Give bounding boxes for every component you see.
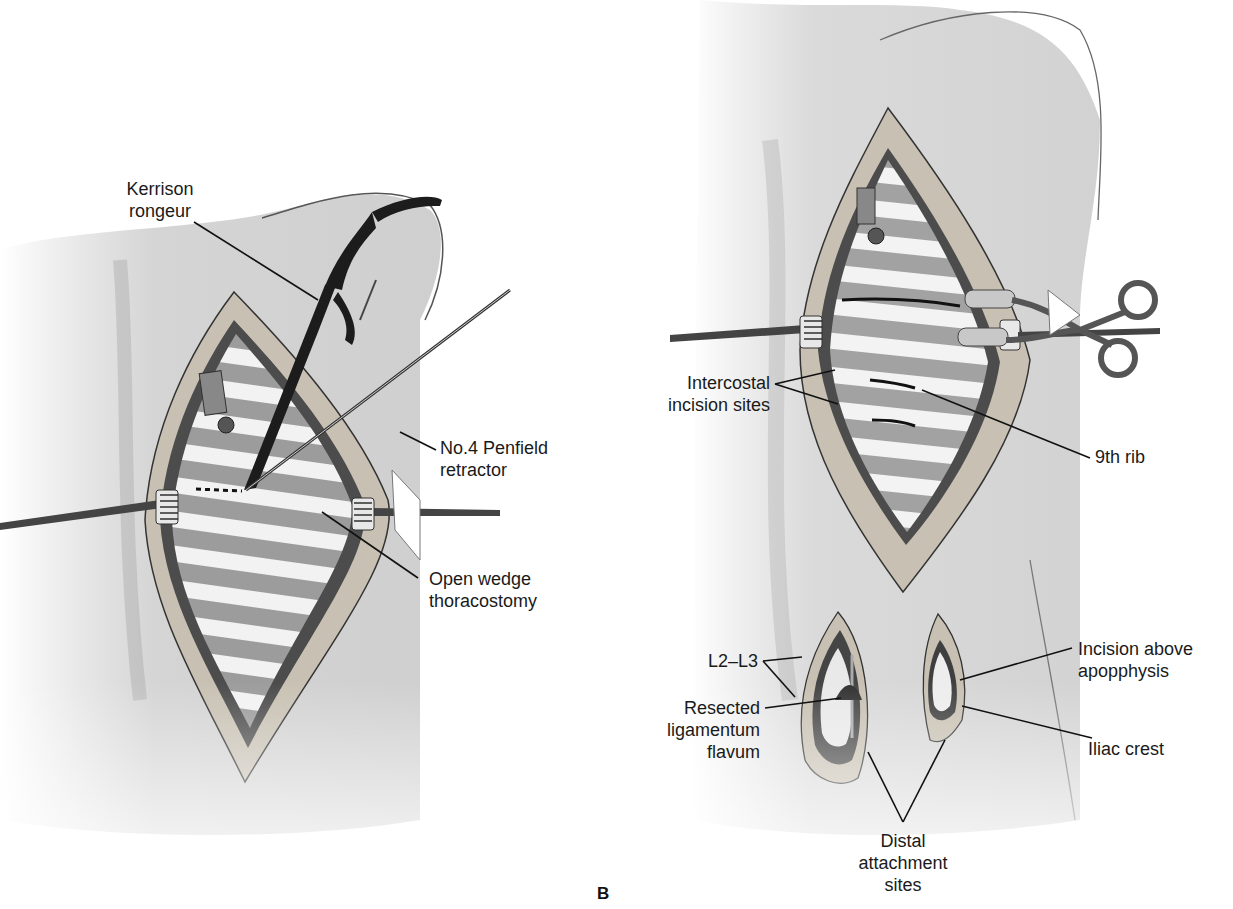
surgical-illustration-figure: Kerrison rongeur No.4 Penfield retractor…	[0, 0, 1233, 909]
label-open-wedge-thoracostomy: Open wedge thoracostomy	[429, 568, 537, 612]
label-resected-ligamentum-flavum: Resected ligamentum flavum	[640, 697, 760, 763]
panel-letter: B	[597, 884, 609, 904]
label-incision-above-apophysis: Incision above apopphysis	[1078, 638, 1193, 682]
label-9th-rib: 9th rib	[1095, 446, 1145, 468]
label-penfield-retractor: No.4 Penfield retractor	[440, 437, 548, 481]
label-iliac-crest: Iliac crest	[1088, 738, 1164, 760]
label-l2-l3: L2–L3	[640, 650, 758, 672]
label-distal-attachment-sites: Distal attachment sites	[838, 830, 968, 896]
label-kerrison-rongeur: Kerrison rongeur	[100, 178, 220, 222]
illustration-canvas	[0, 0, 1233, 909]
label-intercostal-incision-sites: Intercostal incision sites	[600, 372, 770, 416]
